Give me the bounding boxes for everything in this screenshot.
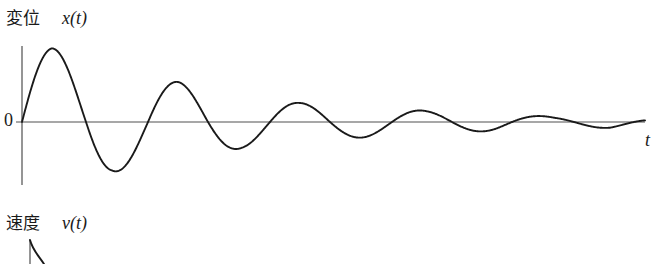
displacement-curve — [22, 48, 645, 171]
velocity-curve — [30, 240, 44, 264]
damped-oscillation-figure: 変位 x(t) 0 t 速度 v(t) — [0, 0, 661, 264]
plot-canvas — [0, 0, 661, 264]
